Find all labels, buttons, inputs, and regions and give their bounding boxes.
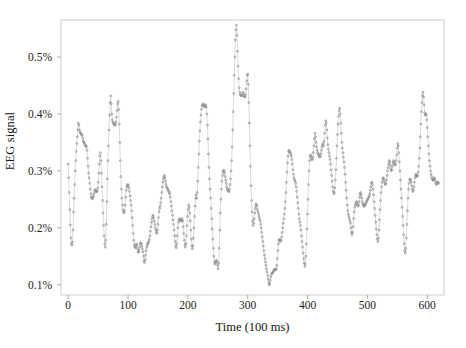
- eeg-signal-markers: [67, 24, 439, 286]
- x-tick-label: 100: [108, 299, 148, 311]
- x-tick-label: 200: [168, 299, 208, 311]
- x-tick-label: 600: [407, 299, 447, 311]
- eeg-signal-line: [68, 25, 438, 285]
- eeg-signal-chart-figure: EEG signal 0.1%0.2%0.3%0.4%0.5% 01002003…: [0, 0, 466, 348]
- x-tick-label: 400: [288, 299, 328, 311]
- x-tick-label: 300: [228, 299, 268, 311]
- x-tick-label: 0: [48, 299, 88, 311]
- plot-canvas: [0, 0, 466, 348]
- x-axis-title: Time (100 ms): [61, 320, 444, 335]
- plot-frame: [61, 20, 444, 295]
- x-tick-label: 500: [347, 299, 387, 311]
